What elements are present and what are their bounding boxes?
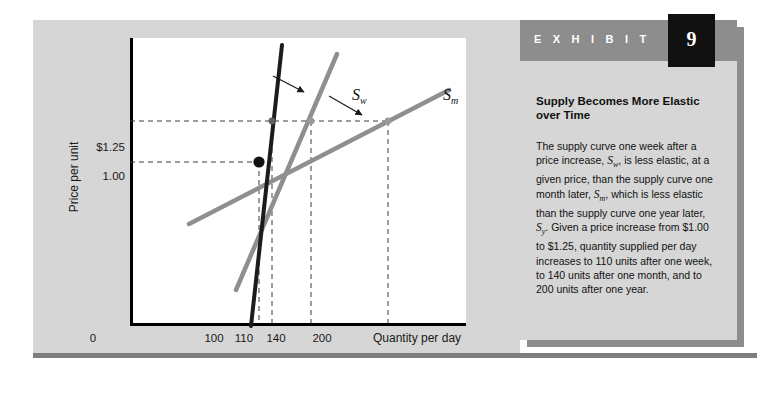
curve-label-sm: Sm: [443, 86, 458, 106]
exhibit-header-bar: E X H I B I T 9: [520, 20, 737, 61]
point-sw-125: [269, 118, 276, 125]
exhibit-label: E X H I B I T: [534, 33, 650, 45]
y-axis-title: Price per unit: [67, 117, 81, 237]
x-tick-label-100: 100: [199, 332, 229, 344]
x-axis-title: Quantity per day: [373, 331, 461, 345]
caption-panel: E X H I B I T 9 Supply Becomes More Elas…: [520, 20, 737, 340]
exhibit-number-box: 9: [668, 14, 715, 67]
point-sm-125: [308, 118, 315, 125]
curve-sm: [236, 54, 337, 290]
x-tick-label-110: 110: [229, 332, 259, 344]
x-tick-label-0: 0: [81, 332, 105, 344]
curve-sy: [189, 90, 449, 224]
curve-label-sw-sub: w: [360, 95, 367, 106]
point-sy-125: [385, 118, 392, 125]
curve-label-sm-sub: m: [451, 95, 458, 106]
chart-plot-area: Sw Sm Sy: [130, 38, 466, 326]
symbol-sy: Sy: [536, 221, 545, 233]
exhibit-number: 9: [668, 28, 715, 51]
equilibrium-dot: [253, 156, 264, 167]
curve-label-sw: Sw: [352, 86, 367, 106]
supply-curves-svg: [130, 38, 466, 326]
figure-panel: Sw Sm Sy $1.25 1.00 Price per unit 0 100…: [33, 20, 520, 353]
symbol-sw: Sw: [607, 154, 618, 166]
caption-body: The supply curve one week after a price …: [536, 139, 718, 296]
x-tick-label-140: 140: [261, 332, 291, 344]
figure-bottom-rule: [33, 353, 757, 358]
curve-sw: [251, 45, 282, 326]
x-tick-label-200: 200: [307, 332, 337, 344]
caption-title: Supply Becomes More Elastic over Time: [536, 94, 716, 122]
symbol-sm: Sm: [594, 188, 606, 200]
